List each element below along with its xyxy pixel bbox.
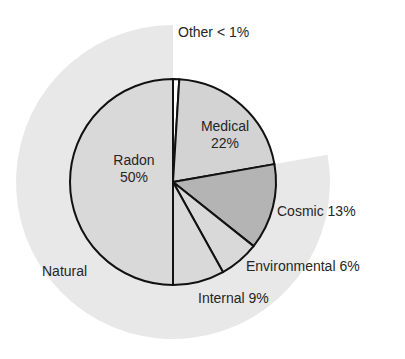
label-environmental: Environmental 6%: [246, 258, 360, 274]
label-cosmic: Cosmic 13%: [277, 203, 356, 219]
label-radon-pct: 50%: [99, 169, 169, 185]
label-other: Other < 1%: [178, 24, 249, 40]
label-natural: Natural: [42, 263, 87, 279]
label-radon-name: Radon: [99, 152, 169, 168]
label-medical-name: Medical: [190, 118, 260, 134]
label-internal: Internal 9%: [198, 290, 269, 306]
label-medical-pct: 22%: [190, 135, 260, 151]
